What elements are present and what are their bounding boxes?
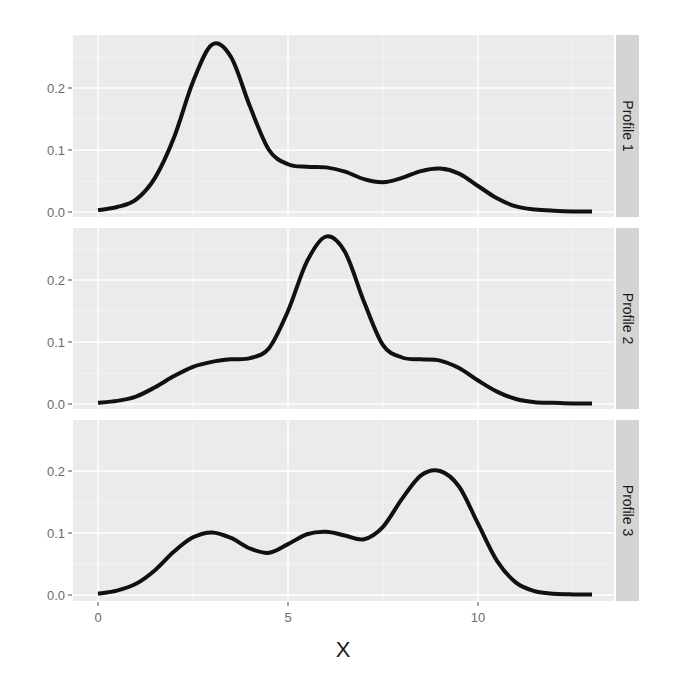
x-axis: 0510 [94, 602, 485, 625]
panel-3: 0.00.10.2Profile 3 [47, 420, 639, 603]
y-tick-label: 0.0 [47, 205, 65, 220]
panel-background [73, 35, 614, 217]
panels: 0.00.10.2Profile 10.00.10.2Profile 20.00… [47, 35, 639, 603]
panel-1: 0.00.10.2Profile 1 [47, 35, 639, 220]
panel-background [73, 420, 614, 601]
y-tick-label: 0.0 [47, 397, 65, 412]
y-tick-label: 0.0 [47, 588, 65, 603]
panel-background [73, 228, 614, 409]
y-tick-label: 0.1 [47, 526, 65, 541]
density-facet-chart: 0.00.10.2Profile 10.00.10.2Profile 20.00… [0, 0, 673, 695]
x-tick-label: 0 [94, 610, 101, 625]
y-tick-label: 0.2 [47, 273, 65, 288]
facet-strip-label: Profile 2 [620, 293, 636, 345]
x-tick-label: 5 [284, 610, 291, 625]
panel-2: 0.00.10.2Profile 2 [47, 228, 639, 412]
facet-strip-label: Profile 1 [620, 100, 636, 152]
y-tick-label: 0.1 [47, 335, 65, 350]
x-axis-title: X [336, 637, 351, 662]
x-tick-label: 10 [471, 610, 485, 625]
y-tick-label: 0.2 [47, 464, 65, 479]
y-tick-label: 0.1 [47, 143, 65, 158]
y-tick-label: 0.2 [47, 81, 65, 96]
facet-strip-label: Profile 3 [620, 485, 636, 537]
